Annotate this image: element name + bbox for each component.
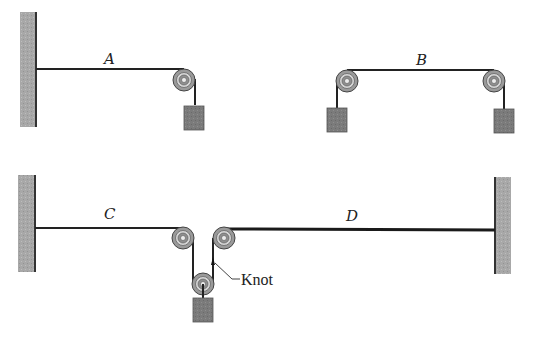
label-b: B (415, 51, 427, 69)
panel-c-d: Knot C D (18, 175, 511, 322)
label-c: C (104, 205, 116, 223)
block-b-right (494, 109, 514, 133)
label-a: A (102, 50, 115, 68)
pulley-d (213, 227, 235, 249)
wall-c (18, 175, 35, 272)
block-b-left (327, 108, 347, 132)
block-c (193, 298, 213, 322)
pulley-b-right (483, 70, 505, 92)
knot-label: Knot (241, 271, 274, 288)
string-d (224, 229, 495, 230)
label-d: D (345, 207, 358, 225)
wall-d (495, 177, 511, 274)
pulley-a (173, 69, 195, 91)
panel-a: A (20, 12, 204, 130)
knot-icon (211, 257, 215, 265)
pulley-b-left (336, 70, 358, 92)
knot-leader (215, 263, 240, 279)
panel-b: B (327, 51, 514, 133)
block-a (184, 106, 204, 130)
pulley-tension-diagram: A B (0, 0, 534, 340)
pulley-c (172, 227, 194, 249)
wall-a (20, 12, 36, 127)
